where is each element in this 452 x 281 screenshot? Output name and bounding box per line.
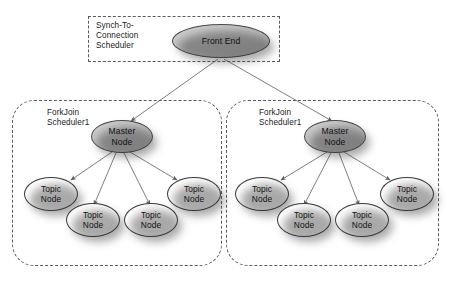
node-right-topic-3-label: Topic Node [352, 210, 372, 231]
node-right-topic-2-label: Topic Node [294, 210, 314, 231]
node-right-topic-1[interactable]: Topic Node [235, 177, 289, 211]
node-right-topic-1-label: Topic Node [252, 184, 272, 205]
node-left-topic-2[interactable]: Topic Node [66, 203, 120, 237]
node-right-master[interactable]: Master Node [304, 120, 366, 153]
node-left-topic-1-label: Topic Node [41, 184, 61, 205]
node-left-master[interactable]: Master Node [91, 120, 153, 153]
cropped-text-sliver [0, 0, 452, 6]
node-left-topic-3[interactable]: Topic Node [124, 203, 178, 237]
node-right-topic-4-label: Topic Node [397, 184, 417, 205]
node-left-topic-2-label: Topic Node [83, 210, 103, 231]
node-left-topic-4[interactable]: Topic Node [167, 177, 221, 211]
node-left-topic-4-label: Topic Node [184, 184, 204, 205]
group-label-synch-to-connection-scheduler: Synch-To- Connection Scheduler [96, 21, 166, 52]
node-left-master-label: Master Node [109, 126, 136, 147]
diagram-canvas: Synch-To- Connection Scheduler Front End… [0, 0, 452, 281]
node-right-topic-4[interactable]: Topic Node [380, 177, 434, 211]
node-left-topic-3-label: Topic Node [141, 210, 161, 231]
node-front-end[interactable]: Front End [172, 24, 270, 58]
node-front-end-label: Front End [202, 36, 241, 47]
node-right-topic-2[interactable]: Topic Node [277, 203, 331, 237]
node-right-topic-3[interactable]: Topic Node [335, 203, 389, 237]
node-left-topic-1[interactable]: Topic Node [24, 177, 78, 211]
node-right-master-label: Master Node [322, 126, 349, 147]
